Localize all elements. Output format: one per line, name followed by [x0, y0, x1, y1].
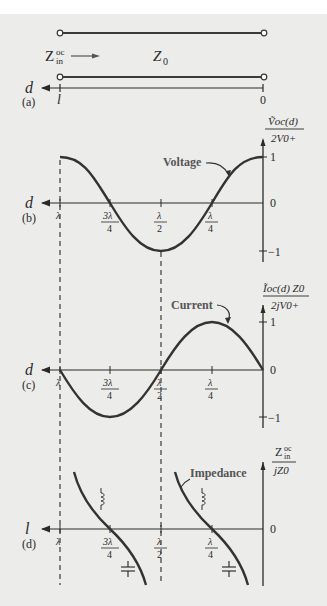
svg-text:λ: λ	[55, 377, 61, 388]
svg-text:2V0+: 2V0+	[271, 132, 296, 144]
inductor-icon	[202, 488, 205, 510]
panel-a-transmission-line: Z oc in Z 0 d (a) l 0	[22, 30, 267, 109]
svg-text:λ: λ	[207, 377, 213, 388]
panel-c-current: d (c) 1 0 −1 Current Ĩoc(d) Z0 2jV0+	[22, 282, 309, 428]
svg-text:0: 0	[270, 363, 276, 377]
svg-text:Current: Current	[171, 298, 213, 312]
inductor-icon	[101, 488, 104, 510]
svg-text:Ṽoc(d): Ṽoc(d)	[268, 115, 298, 128]
svg-text:λ: λ	[55, 210, 61, 221]
svg-text:in: in	[56, 56, 64, 66]
svg-text:l: l	[57, 92, 61, 107]
svg-text:λ: λ	[207, 210, 213, 221]
svg-text:1: 1	[270, 150, 276, 164]
terminal-icon	[261, 30, 267, 36]
svg-text:λ: λ	[55, 536, 61, 547]
x-tick-labels-d: λ 3λ 4 λ 2 λ 4	[55, 536, 218, 560]
svg-text:d: d	[25, 194, 34, 211]
svg-text:3λ: 3λ	[102, 536, 113, 547]
svg-text:Voltage: Voltage	[163, 155, 202, 169]
zin-label: Z	[45, 48, 54, 64]
svg-text:Z: Z	[275, 445, 282, 459]
svg-text:−1: −1	[268, 245, 281, 259]
capacitor-icon	[121, 561, 135, 577]
svg-text:Z: Z	[153, 48, 162, 64]
panel-d-impedance: l (d) 0 Impedance Z oc in jZ0	[22, 444, 296, 586]
svg-text:2: 2	[157, 549, 162, 560]
svg-text:λ: λ	[156, 377, 162, 388]
svg-text:4: 4	[208, 390, 213, 401]
terminal-icon	[261, 74, 267, 80]
svg-text:0: 0	[270, 196, 276, 210]
svg-text:d: d	[25, 361, 34, 378]
svg-text:λ: λ	[156, 210, 162, 221]
svg-text:Impedance: Impedance	[190, 466, 247, 480]
svg-text:−1: −1	[268, 411, 281, 425]
svg-text:1: 1	[270, 315, 276, 329]
svg-text:0: 0	[163, 56, 168, 67]
terminal-icon	[57, 74, 63, 80]
svg-text:Ĩoc(d) Z0: Ĩoc(d) Z0	[262, 282, 305, 295]
svg-text:jZ0: jZ0	[272, 464, 289, 476]
svg-text:in: in	[284, 452, 290, 461]
svg-text:λ: λ	[156, 536, 162, 547]
panel-b-voltage: d (b) 1 0 −1 Voltage Ṽoc(d) 2V0+	[22, 115, 304, 262]
svg-text:0: 0	[270, 522, 276, 536]
svg-text:3λ: 3λ	[102, 377, 113, 388]
capacitor-icon	[222, 561, 236, 577]
svg-text:4: 4	[107, 549, 112, 560]
svg-text:2: 2	[157, 223, 162, 234]
svg-text:4: 4	[208, 549, 213, 560]
svg-text:(d): (d)	[22, 537, 36, 551]
svg-text:(b): (b)	[22, 211, 36, 225]
svg-text:4: 4	[107, 223, 112, 234]
svg-text:4: 4	[107, 390, 112, 401]
svg-text:(c): (c)	[22, 378, 35, 392]
svg-text:(a): (a)	[22, 95, 35, 109]
svg-text:3λ: 3λ	[102, 210, 113, 221]
svg-text:0: 0	[260, 93, 266, 107]
svg-text:2jV0+: 2jV0+	[271, 299, 299, 311]
svg-text:d: d	[25, 79, 34, 96]
svg-text:2: 2	[157, 390, 162, 401]
svg-text:4: 4	[208, 223, 213, 234]
terminal-icon	[57, 30, 63, 36]
svg-text:l: l	[25, 520, 30, 537]
figure: Z oc in Z 0 d (a) l 0 d (b) 1	[0, 0, 327, 606]
svg-text:λ: λ	[207, 536, 213, 547]
